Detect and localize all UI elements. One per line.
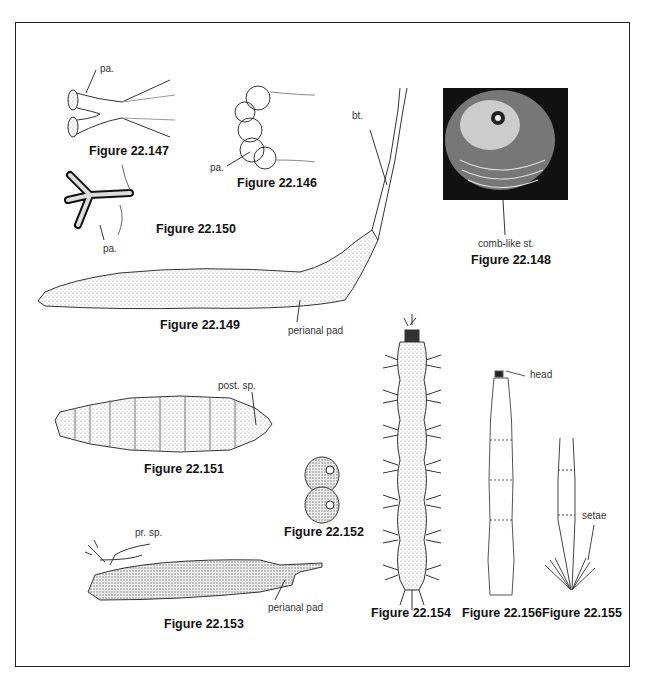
figure-22-152-drawing <box>305 457 339 523</box>
label-comb-like-st: comb-like st. <box>478 238 534 249</box>
plate-illustrations <box>0 0 646 681</box>
caption-figure-22-149: Figure 22.149 <box>160 318 240 332</box>
label-pa-147: pa. <box>100 63 114 74</box>
label-pa-146: pa. <box>210 162 224 173</box>
caption-figure-22-152: Figure 22.152 <box>284 525 364 539</box>
figure-22-148-photo <box>443 88 568 235</box>
label-pr-sp: pr. sp. <box>135 527 162 538</box>
caption-figure-22-148: Figure 22.148 <box>471 253 551 267</box>
label-perianal-pad-153: perianal pad <box>268 602 323 613</box>
caption-figure-22-147: Figure 22.147 <box>89 144 169 158</box>
label-bt: bt. <box>352 110 363 121</box>
figure-22-147-drawing <box>68 70 175 137</box>
figure-22-151-drawing <box>55 392 272 452</box>
caption-figure-22-156: Figure 22.156 <box>462 606 542 620</box>
label-setae: setae <box>582 510 606 521</box>
caption-figure-22-151: Figure 22.151 <box>144 462 224 476</box>
caption-figure-22-154: Figure 22.154 <box>371 606 451 620</box>
figure-22-153-drawing <box>85 540 322 600</box>
figure-22-146-drawing <box>227 86 315 169</box>
figure-22-154-drawing <box>383 314 441 610</box>
figure-22-156-drawing <box>488 371 525 595</box>
caption-figure-22-153: Figure 22.153 <box>164 617 244 631</box>
caption-figure-22-146: Figure 22.146 <box>237 176 317 190</box>
figure-22-150-drawing <box>68 165 130 240</box>
figure-22-149-drawing <box>38 88 407 322</box>
label-head: head <box>530 369 552 380</box>
caption-figure-22-150: Figure 22.150 <box>156 222 236 236</box>
label-pa-150: pa. <box>103 243 117 254</box>
caption-figure-22-155: Figure 22.155 <box>542 606 622 620</box>
label-perianal-pad-149: perianal pad <box>288 325 343 336</box>
label-post-sp: post. sp. <box>218 380 256 391</box>
